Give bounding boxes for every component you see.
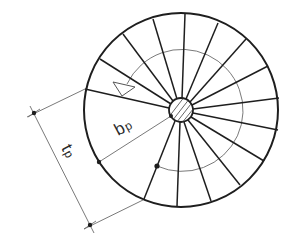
label-tp: tp	[57, 141, 80, 161]
bp-dimension-line	[99, 116, 171, 162]
tp-start-dot	[32, 111, 36, 115]
walking-direction-arrow-icon	[113, 82, 135, 96]
walking-line-dot	[154, 163, 159, 168]
svg-text:bp: bp	[111, 115, 135, 140]
label-bp: bp	[111, 115, 135, 140]
tp-end-dot	[88, 223, 92, 227]
svg-text:tp: tp	[57, 141, 80, 161]
spiral-staircase-diagram: bp tp	[0, 0, 300, 247]
hub-dot	[169, 114, 173, 118]
bp-outer-dot	[97, 160, 101, 164]
